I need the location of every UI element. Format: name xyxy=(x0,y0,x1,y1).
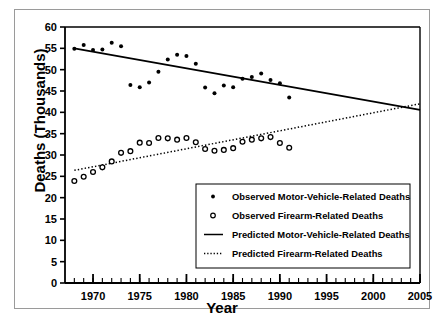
y-tick-label: 5 xyxy=(51,256,57,268)
data-point-motor-vehicle xyxy=(241,77,245,81)
legend-label: Observed Motor-Vehicle-Related Deaths xyxy=(232,191,410,202)
data-point-motor-vehicle xyxy=(156,70,160,74)
data-point-firearm xyxy=(72,179,77,184)
data-point-firearm xyxy=(100,165,105,170)
legend: Observed Motor-Vehicle-Related DeathsObs… xyxy=(196,184,410,268)
data-point-firearm xyxy=(221,147,226,152)
legend-label: Predicted Motor-Vehicle-Related Deaths xyxy=(232,229,410,240)
data-point-firearm xyxy=(147,141,152,146)
scatter-chart: 051015202530354045505560 197019751980198… xyxy=(0,0,444,333)
data-point-firearm xyxy=(184,136,189,141)
data-point-motor-vehicle xyxy=(110,41,114,45)
plot-area-wrapper: 051015202530354045505560 197019751980198… xyxy=(0,0,444,333)
legend-open-circle-icon xyxy=(211,213,216,218)
data-point-motor-vehicle xyxy=(231,85,235,89)
figure-container: 051015202530354045505560 197019751980198… xyxy=(0,0,444,333)
data-point-motor-vehicle xyxy=(203,86,207,90)
data-point-motor-vehicle xyxy=(100,48,104,52)
data-point-firearm xyxy=(203,147,208,152)
data-point-motor-vehicle xyxy=(212,91,216,95)
data-point-motor-vehicle xyxy=(222,83,226,87)
data-point-motor-vehicle xyxy=(269,78,273,82)
data-point-motor-vehicle xyxy=(119,44,123,48)
legend-item: Predicted Motor-Vehicle-Related Deaths xyxy=(204,229,410,240)
legend-label: Predicted Firearm-Related Deaths xyxy=(232,248,383,259)
data-point-firearm xyxy=(156,136,161,141)
data-point-motor-vehicle xyxy=(128,83,132,87)
data-point-firearm xyxy=(287,145,292,150)
data-point-motor-vehicle xyxy=(138,85,142,89)
data-point-firearm xyxy=(193,140,198,145)
data-point-motor-vehicle xyxy=(259,72,263,76)
data-point-firearm xyxy=(175,137,180,142)
data-point-motor-vehicle xyxy=(287,95,291,99)
data-point-firearm xyxy=(128,149,133,154)
data-point-firearm xyxy=(91,170,96,175)
predicted-motor-vehicle-line xyxy=(74,48,420,109)
y-axis-title: Deaths (Thousands) xyxy=(31,6,48,236)
x-axis-title: Year xyxy=(0,299,444,316)
data-point-firearm xyxy=(109,159,114,164)
data-point-motor-vehicle xyxy=(175,53,179,57)
data-point-firearm xyxy=(249,137,254,142)
observed-motor-vehicle-points xyxy=(72,41,291,100)
legend-label: Observed Firearm-Related Deaths xyxy=(232,210,383,221)
data-point-motor-vehicle xyxy=(91,48,95,52)
y-tick-label: 0 xyxy=(51,277,57,289)
y-tick-label: 10 xyxy=(45,234,57,246)
legend-filled-circle-icon xyxy=(211,195,215,199)
data-point-motor-vehicle xyxy=(278,81,282,85)
observed-firearm-points xyxy=(72,135,292,184)
data-point-firearm xyxy=(81,174,86,179)
data-point-motor-vehicle xyxy=(72,47,76,51)
data-point-firearm xyxy=(212,148,217,153)
data-point-motor-vehicle xyxy=(250,75,254,79)
data-point-firearm xyxy=(119,150,124,155)
data-point-motor-vehicle xyxy=(194,62,198,66)
data-point-firearm xyxy=(240,139,245,144)
data-point-firearm xyxy=(268,135,273,140)
data-point-motor-vehicle xyxy=(82,43,86,47)
data-point-firearm xyxy=(231,146,236,151)
data-point-firearm xyxy=(277,141,282,146)
legend-item: Observed Firearm-Related Deaths xyxy=(211,210,383,221)
legend-item: Observed Motor-Vehicle-Related Deaths xyxy=(211,191,410,202)
data-point-firearm xyxy=(137,140,142,145)
x-axis-major-ticks xyxy=(93,274,420,283)
data-point-firearm xyxy=(165,136,170,141)
predicted-firearm-line xyxy=(74,104,420,171)
data-point-motor-vehicle xyxy=(147,80,151,84)
data-point-motor-vehicle xyxy=(166,57,170,61)
data-point-motor-vehicle xyxy=(184,54,188,58)
data-point-firearm xyxy=(259,136,264,141)
